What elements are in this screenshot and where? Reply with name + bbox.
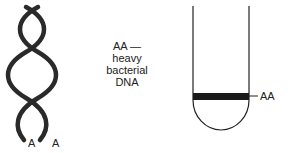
strand-label-right: A bbox=[52, 137, 59, 149]
caption-line-2: heavy bbox=[104, 52, 150, 64]
caption: AA — heavy bacterial DNA bbox=[104, 40, 150, 88]
test-tube bbox=[193, 6, 249, 130]
caption-line-3: bacterial bbox=[104, 64, 150, 76]
band-label: AA bbox=[260, 90, 275, 102]
strand-label-left: A bbox=[28, 137, 35, 149]
caption-line-4: DNA bbox=[104, 76, 150, 88]
caption-line-1: AA — bbox=[104, 40, 150, 52]
dna-band bbox=[193, 93, 249, 100]
dna-helix bbox=[8, 7, 56, 140]
